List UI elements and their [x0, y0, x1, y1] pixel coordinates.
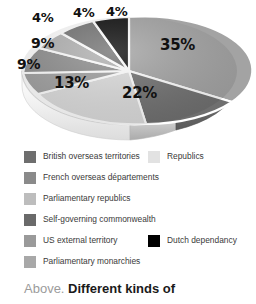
- chart-legend: British overseas territories Republics F…: [0, 146, 256, 272]
- slice-label-4pct-a: 4%: [32, 11, 53, 24]
- legend-item-us-external-territory[interactable]: US external territory: [24, 232, 117, 249]
- legend-label-us-external-territory: US external territory: [43, 236, 117, 244]
- slice-label-22pct: 22%: [122, 86, 157, 101]
- legend-label-republics: Republics: [167, 152, 204, 160]
- legend-label-parliamentary-republics: Parliamentary republics: [43, 194, 131, 202]
- slice-label-9pct-a: 9%: [31, 36, 54, 50]
- legend-item-dutch-dependancy[interactable]: Dutch dependancy: [148, 232, 237, 249]
- caption-text: Different kinds of: [68, 281, 175, 296]
- legend-swatch-french-overseas-departements: [24, 172, 36, 184]
- legend-swatch-dutch-dependancy: [148, 235, 160, 247]
- legend-swatch-parliamentary-republics: [24, 193, 36, 205]
- pie-chart: 4% 4% 4% 9% 9% 13% 35% 22%: [0, 0, 256, 145]
- legend-label-self-governing-commonwealth: Self-governing commonwealth: [43, 215, 156, 223]
- slice-label-4pct-c: 4%: [106, 5, 127, 18]
- legend-swatch-republics: [148, 151, 160, 163]
- slice-label-35pct: 35%: [160, 38, 195, 53]
- slice-label-4pct-b: 4%: [73, 6, 94, 19]
- legend-swatch-parliamentary-monarchies: [24, 256, 36, 268]
- legend-item-french-overseas-departements[interactable]: French overseas départements: [24, 169, 159, 186]
- legend-item-british-overseas-territories[interactable]: British overseas territories: [24, 148, 140, 165]
- legend-item-republics[interactable]: Republics: [148, 148, 204, 165]
- caption-prefix: Above.: [24, 281, 64, 296]
- figure-caption: Above. Different kinds of: [24, 281, 256, 296]
- legend-swatch-us-external-territory: [24, 235, 36, 247]
- legend-swatch-self-governing-commonwealth: [24, 214, 36, 226]
- legend-label-british-overseas-territories: British overseas territories: [43, 152, 140, 160]
- legend-label-dutch-dependancy: Dutch dependancy: [167, 236, 237, 244]
- legend-item-parliamentary-republics[interactable]: Parliamentary republics: [24, 190, 131, 207]
- legend-swatch-british-overseas-territories: [24, 151, 36, 163]
- legend-item-self-governing-commonwealth[interactable]: Self-governing commonwealth: [24, 211, 156, 228]
- legend-label-french-overseas-departements: French overseas départements: [43, 173, 159, 181]
- slice-label-9pct-b: 9%: [17, 57, 40, 71]
- legend-item-parliamentary-monarchies[interactable]: Parliamentary monarchies: [24, 253, 140, 270]
- legend-label-parliamentary-monarchies: Parliamentary monarchies: [43, 257, 140, 265]
- slice-label-13pct: 13%: [54, 76, 89, 91]
